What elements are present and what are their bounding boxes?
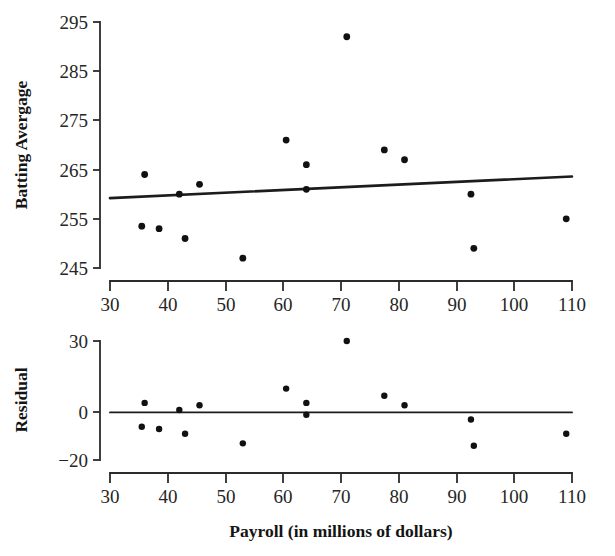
y-axis-tick-labels-top-panel: 295 285 275 265 255 245 (60, 12, 89, 279)
x-tick-label: 70 (332, 294, 351, 315)
data-point (563, 431, 569, 437)
x-tick-label: 30 (101, 294, 120, 315)
chart-canvas: Batting Avergage 295 285 275 265 255 245 (0, 0, 615, 556)
data-point (563, 215, 570, 222)
data-point (156, 225, 163, 232)
y-axis-ticks-bottom-panel (93, 341, 100, 460)
x-axis-title-payroll: Payroll (in millions of dollars) (229, 521, 452, 541)
data-point (381, 147, 388, 154)
scatter-points-residuals (139, 338, 570, 449)
panel-residuals: Residual 30 0 −20 (11, 331, 586, 541)
data-point (381, 393, 387, 399)
data-point (401, 156, 408, 163)
y-tick-label: 30 (69, 331, 88, 352)
x-tick-label: 70 (332, 486, 351, 507)
x-tick-label: 50 (217, 294, 236, 315)
data-point (471, 443, 477, 449)
panel-batting-average: Batting Avergage 295 285 275 265 255 245 (11, 12, 586, 315)
data-point (239, 255, 246, 262)
y-axis-ticks-top-panel (93, 22, 100, 268)
y-tick-label: 295 (60, 12, 89, 33)
x-tick-label: 80 (390, 294, 409, 315)
data-point (344, 338, 350, 344)
y-tick-label: 285 (60, 61, 89, 82)
data-point (196, 181, 203, 188)
x-tick-label: 90 (448, 486, 467, 507)
data-point (182, 431, 188, 437)
x-tick-label: 40 (159, 294, 178, 315)
x-axis-ticks-bottom-panel (110, 473, 572, 483)
data-point (283, 385, 289, 391)
x-axis-tick-labels-top-panel: 30 40 50 60 70 80 90 100 110 (101, 294, 586, 315)
data-point (156, 426, 162, 432)
data-point (283, 137, 290, 144)
x-tick-label: 100 (500, 486, 529, 507)
x-tick-label: 60 (274, 486, 293, 507)
data-point (468, 416, 474, 422)
data-point (182, 235, 189, 242)
y-axis-title-residual: Residual (11, 367, 31, 432)
data-point (303, 186, 310, 193)
data-point (303, 161, 310, 168)
x-tick-label: 50 (217, 486, 236, 507)
x-tick-label: 60 (274, 294, 293, 315)
data-point (303, 400, 309, 406)
x-tick-label: 100 (500, 294, 529, 315)
data-point (303, 412, 309, 418)
y-tick-label: 245 (60, 258, 89, 279)
data-point (176, 407, 182, 413)
x-axis-ticks-top-panel (110, 281, 572, 291)
data-point (343, 33, 350, 40)
scatter-points-batting-average (138, 33, 569, 261)
data-point (401, 402, 407, 408)
data-point (138, 223, 145, 230)
y-tick-label: 265 (60, 160, 89, 181)
x-tick-label: 90 (448, 294, 467, 315)
y-axis-tick-labels-bottom-panel: 30 0 −20 (58, 331, 88, 471)
data-point (196, 402, 202, 408)
y-tick-label: 255 (60, 209, 89, 230)
data-point (141, 171, 148, 178)
data-point (176, 191, 183, 198)
y-axis-title-batting-average: Batting Avergage (11, 81, 31, 210)
data-point (139, 423, 145, 429)
data-point (468, 191, 475, 198)
data-point (470, 245, 477, 252)
data-point (141, 400, 147, 406)
figure-root: Batting Avergage 295 285 275 265 255 245 (0, 0, 615, 556)
x-tick-label: 110 (558, 294, 586, 315)
y-tick-label: 0 (79, 402, 89, 423)
data-point (240, 440, 246, 446)
x-tick-label: 40 (159, 486, 178, 507)
x-tick-label: 30 (101, 486, 120, 507)
y-tick-label: 275 (60, 110, 89, 131)
y-tick-label: −20 (58, 450, 88, 471)
x-axis-tick-labels-bottom-panel: 30 40 50 60 70 80 90 100 110 (101, 486, 586, 507)
x-tick-label: 80 (390, 486, 409, 507)
x-tick-label: 110 (558, 486, 586, 507)
